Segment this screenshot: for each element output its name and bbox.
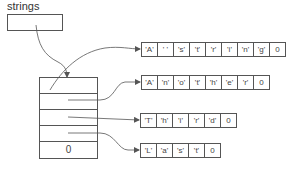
arrow-pointer-1 [68, 82, 140, 100]
pointer-arrows [0, 0, 290, 171]
arrow-pointer-3 [68, 133, 139, 150]
arrow-pointer-0 [50, 47, 140, 90]
arrow-pointer-2 [68, 117, 139, 120]
diagram-canvas: strings 0 'A' ' ' 's' 't' 'r' 'i' 'n' 'g… [0, 0, 290, 171]
arrow-strings-to-array [36, 25, 67, 77]
